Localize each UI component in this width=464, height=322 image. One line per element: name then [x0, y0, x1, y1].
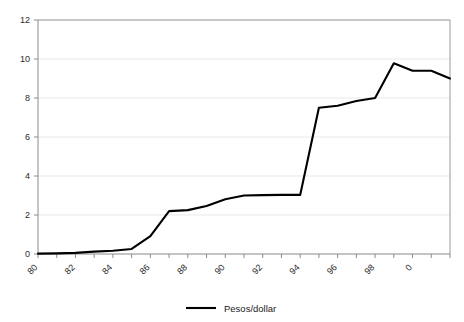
- y-tick-label-8: 8: [25, 93, 30, 103]
- chart-container: 024681012 808284868890929496980 Pesos/do…: [0, 0, 464, 322]
- legend-label-pesos-dollar: Pesos/dollar: [224, 303, 276, 314]
- line-chart: 024681012 808284868890929496980 Pesos/do…: [0, 0, 464, 322]
- y-tick-label-10: 10: [20, 54, 30, 64]
- y-tick-label-12: 12: [20, 15, 30, 25]
- y-tick-label-4: 4: [25, 171, 30, 181]
- y-tick-label-0: 0: [25, 249, 30, 259]
- y-tick-label-6: 6: [25, 132, 30, 142]
- y-tick-label-2: 2: [25, 210, 30, 220]
